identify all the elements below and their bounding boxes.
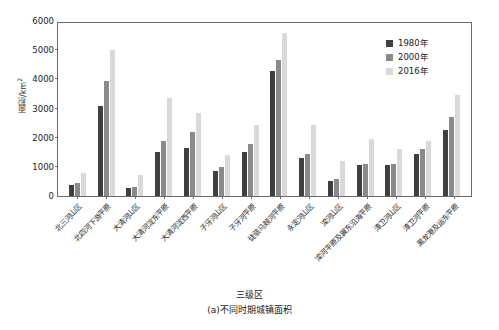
bar-group [293,23,322,196]
bar-1 [219,167,224,196]
bar-1 [420,149,425,196]
bar-1 [276,60,281,197]
bar-group [178,23,207,196]
bar-0 [385,165,390,196]
y-tick-label: 3000 [32,104,54,114]
bar-group [264,23,293,196]
legend-label: 2000年 [398,50,429,64]
bar-2 [340,161,345,196]
legend-item: 2000年 [386,50,429,64]
bar-1 [334,179,339,196]
legend-label: 1980年 [398,36,429,50]
bar-1 [363,164,368,196]
bar-1 [248,144,253,197]
legend-swatch-icon [386,68,393,75]
bar-2 [167,98,172,196]
bar-2 [138,175,143,196]
x-tick-label: 永定河山区 [283,201,316,234]
bar-0 [126,188,131,196]
bar-0 [328,181,333,196]
bar-0 [213,171,218,196]
bar-2 [196,113,201,196]
bar-group [63,23,92,196]
bar-group [121,23,150,196]
y-tick-label: 4000 [32,74,54,84]
y-tick-label: 2000 [32,133,54,143]
bar-0 [414,154,419,196]
bar-1 [391,164,396,196]
bar-1 [104,81,109,196]
bar-0 [155,152,160,196]
bar-0 [299,158,304,196]
bar-1 [132,187,137,196]
x-axis-title: 三级区 [0,288,499,301]
bar-group [236,23,265,196]
bar-0 [98,106,103,196]
bar-2 [455,95,460,196]
legend-item: 1980年 [386,36,429,50]
x-axis-labels: 北三河山区北四河下游平原大清河山区大清河淀东平原大清河淀西平原子牙河山区子牙河平… [57,199,472,294]
legend-swatch-icon [386,40,393,47]
figure-caption: (a)不同时期城镇面积 [0,303,499,316]
bar-2 [254,125,259,196]
bar-2 [282,33,287,196]
bar-0 [270,71,275,196]
legend-label: 2016年 [398,64,429,78]
y-tick-label: 1000 [32,162,54,172]
bar-1 [161,141,166,196]
y-axis-title: 面积/km2 [16,78,30,113]
x-tick-label: 子牙河山区 [196,201,229,234]
x-tick-label: 滦河山区 [317,201,345,229]
bar-group [207,23,236,196]
bar-0 [357,165,362,197]
bar-2 [81,173,86,196]
bar-2 [110,50,115,196]
chart-figure: 面积/km2 0100020003000400050006000 1980年20… [0,0,499,330]
bar-1 [449,117,454,196]
bar-1 [75,183,80,196]
bar-1 [305,154,310,196]
bar-group [149,23,178,196]
bar-group [437,23,466,196]
bar-0 [69,185,74,196]
y-tick-label: 6000 [32,16,54,26]
bar-group [322,23,351,196]
bar-2 [225,155,230,196]
bar-2 [369,139,374,196]
bar-0 [242,152,247,196]
x-tick-label: 漳卫河山区 [370,201,403,234]
legend-item: 2016年 [386,64,429,78]
y-tick-label: 5000 [32,45,54,55]
legend-swatch-icon [386,54,393,61]
bar-2 [426,141,431,196]
bar-group [351,23,380,196]
bar-0 [443,130,448,196]
chart-legend: 1980年2000年2016年 [386,36,429,78]
y-tick-label: 0 [49,191,54,201]
bar-2 [311,125,316,196]
bar-1 [190,132,195,196]
bar-0 [184,148,189,196]
bar-group [92,23,121,196]
bar-2 [397,149,402,196]
